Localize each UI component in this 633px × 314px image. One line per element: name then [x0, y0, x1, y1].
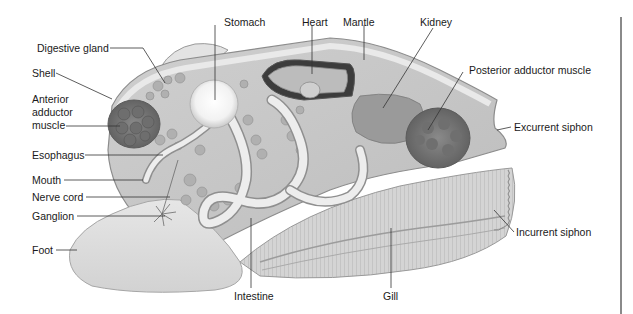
label-nerve-cord: Nerve cord — [32, 191, 83, 203]
label-kidney: Kidney — [420, 16, 452, 28]
label-ganglion: Ganglion — [32, 210, 74, 222]
label-foot: Foot — [32, 244, 53, 256]
label-gill: Gill — [383, 290, 398, 302]
clam-anatomy-diagram: Stomach Heart Mantle Kidney Digestive gl… — [0, 0, 633, 314]
label-anterior-adductor-muscle: Anterior adductor muscle — [32, 93, 73, 132]
label-digestive-gland: Digestive gland — [37, 42, 109, 54]
label-excurrent-siphon: Excurrent siphon — [514, 121, 593, 133]
label-posterior-adductor-muscle: Posterior adductor muscle — [469, 64, 591, 76]
label-mantle: Mantle — [343, 16, 375, 28]
label-esophagus: Esophagus — [32, 149, 85, 161]
stomach-shape — [190, 80, 238, 128]
label-heart: Heart — [302, 16, 328, 28]
label-mouth: Mouth — [32, 174, 61, 186]
label-incurrent-siphon: Incurrent siphon — [516, 226, 591, 238]
page-divider-line — [620, 17, 622, 314]
label-intestine: Intestine — [234, 290, 274, 302]
label-shell: Shell — [32, 67, 55, 79]
label-stomach: Stomach — [224, 16, 265, 28]
